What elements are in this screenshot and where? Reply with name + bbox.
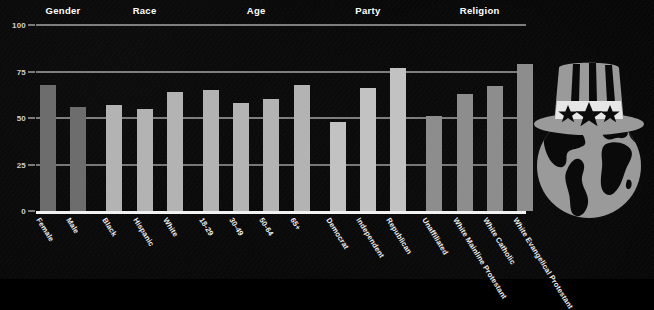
bar-label: 18-29	[197, 216, 215, 237]
gridline-75	[36, 71, 526, 72]
bar-label: Independent	[354, 216, 386, 260]
y-axis-tick-mark	[28, 118, 35, 119]
bar-label: Hispanic	[131, 216, 156, 248]
bar	[233, 103, 249, 211]
bar-label: Male	[65, 216, 82, 235]
y-axis-tick-mark	[28, 164, 35, 165]
bar	[426, 116, 442, 211]
axis-baseline	[36, 211, 526, 214]
bar	[487, 86, 503, 211]
bar	[137, 109, 153, 211]
bar	[40, 85, 56, 211]
bar	[294, 85, 310, 211]
bar	[263, 99, 279, 211]
bar	[70, 107, 86, 211]
bar-label: Unaffiliated	[421, 216, 451, 256]
group-header-religion: Religion	[426, 5, 533, 16]
group-header-race: Race	[106, 5, 182, 16]
y-axis-tick-mark	[28, 25, 35, 26]
y-axis-tick-mark	[28, 211, 35, 212]
bar	[167, 92, 183, 211]
bar	[390, 68, 406, 211]
y-axis-tick-100: 100	[0, 21, 26, 30]
bar-label: 30-49	[228, 216, 246, 237]
bar	[457, 94, 473, 211]
uncle-sam-hat-globe-icon	[530, 44, 648, 234]
y-axis-tick-50: 50	[0, 114, 26, 123]
bar	[360, 88, 376, 211]
y-axis-tick-75: 75	[0, 67, 26, 76]
bar-label: Black	[101, 216, 120, 238]
bar-label: Democrat	[324, 216, 350, 251]
y-axis-tick-0: 0	[0, 207, 26, 216]
group-header-age: Age	[203, 5, 310, 16]
bar	[203, 90, 219, 211]
gridline-100	[36, 25, 526, 26]
bar-label: Republican	[385, 216, 415, 256]
bar-label: 50-64	[258, 216, 276, 237]
bar	[106, 105, 122, 211]
bar-label: White Catholic	[481, 216, 517, 266]
bar	[330, 122, 346, 211]
bar-label: 65+	[288, 216, 303, 232]
group-header-gender: Gender	[40, 5, 86, 16]
bar-label: White	[161, 216, 180, 239]
bar-label: Female	[34, 216, 56, 243]
y-axis-tick-mark	[28, 71, 35, 72]
y-axis-tick-25: 25	[0, 160, 26, 169]
group-header-party: Party	[330, 5, 406, 16]
bar-label: White Mainline Protestant	[451, 216, 509, 301]
